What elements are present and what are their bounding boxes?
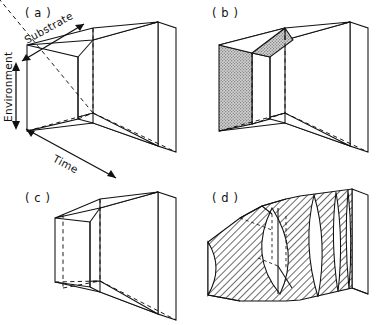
- funnel-mid-face-b: [252, 53, 270, 124]
- back-slab-face: [93, 22, 158, 146]
- environment-axis-label: Environment: [2, 52, 14, 122]
- back-slab-face-b: [285, 22, 350, 146]
- back-slab-edge: [158, 22, 176, 152]
- panel-a-label: ( a ): [25, 6, 51, 20]
- figure-container: ( a ) Substrate: [0, 0, 380, 325]
- time-arrow-head-right: [107, 170, 116, 178]
- neck-front-face-c: [55, 218, 90, 287]
- environment-axis: Environment: [2, 52, 20, 130]
- time-axis-label: Time: [50, 152, 80, 176]
- time-axis: Time: [26, 129, 116, 178]
- funnel-mouth-face: [27, 45, 78, 131]
- panel-d-label: ( d ): [212, 191, 239, 205]
- panel-b: ( b ): [212, 6, 368, 152]
- panel-c-back-slab: [100, 192, 176, 320]
- panel-c: ( c ): [25, 191, 176, 320]
- back-slab-edge-b: [350, 22, 368, 152]
- panel-a: ( a ) Substrate: [0, 0, 176, 178]
- panel-d: ( d ): [200, 180, 375, 310]
- back-slab-edge-d: [352, 189, 368, 294]
- panel-d-back-slab: [352, 189, 368, 294]
- substrate-arrow-head-up: [75, 24, 84, 31]
- panel-b-label: ( b ): [212, 6, 239, 20]
- ridge-upper: [78, 40, 93, 57]
- four-panel-figure: ( a ) Substrate: [0, 0, 380, 325]
- panel-c-label: ( c ): [25, 191, 51, 205]
- stippled-front-face: [219, 45, 252, 131]
- back-slab-edge-c: [158, 192, 176, 320]
